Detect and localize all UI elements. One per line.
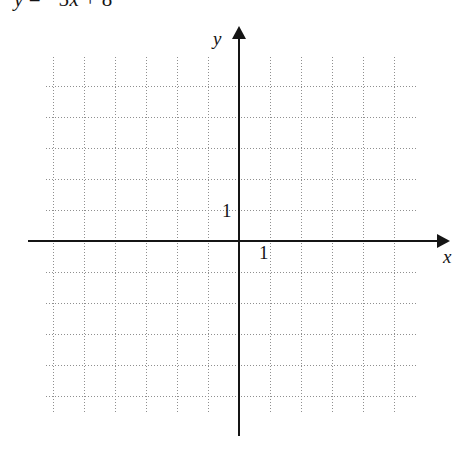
grid-line-horizontal (46, 179, 416, 180)
grid-line-vertical (394, 57, 395, 413)
grid-line-vertical (208, 57, 209, 413)
grid-line-vertical (115, 57, 116, 413)
coordinate-grid (46, 57, 416, 413)
grid-line-horizontal (46, 117, 416, 118)
x-axis-line (28, 240, 442, 242)
cartesian-plot: y x 1 1 (0, 0, 469, 457)
grid-line-vertical (332, 57, 333, 413)
worksheet-graph-page: y=−5x+8 y x 1 1 (0, 0, 469, 457)
grid-line-vertical (146, 57, 147, 413)
grid-line-horizontal (46, 272, 416, 273)
grid-line-vertical (270, 57, 271, 413)
grid-line-horizontal (46, 365, 416, 366)
x-axis-label: x (443, 246, 451, 268)
grid-line-vertical (301, 57, 302, 413)
y-axis-line (238, 36, 240, 436)
y-axis-arrow-icon (232, 26, 246, 39)
x-axis-tick-label-1: 1 (259, 242, 269, 264)
grid-line-horizontal (46, 148, 416, 149)
y-axis-tick-label-1: 1 (222, 200, 232, 222)
y-axis-label: y (213, 28, 221, 50)
grid-line-horizontal (46, 334, 416, 335)
grid-line-horizontal (46, 303, 416, 304)
grid-line-horizontal (46, 396, 416, 397)
grid-line-vertical (177, 57, 178, 413)
grid-line-vertical (363, 57, 364, 413)
grid-line-vertical (53, 57, 54, 413)
grid-line-horizontal (46, 86, 416, 87)
grid-line-vertical (84, 57, 85, 413)
